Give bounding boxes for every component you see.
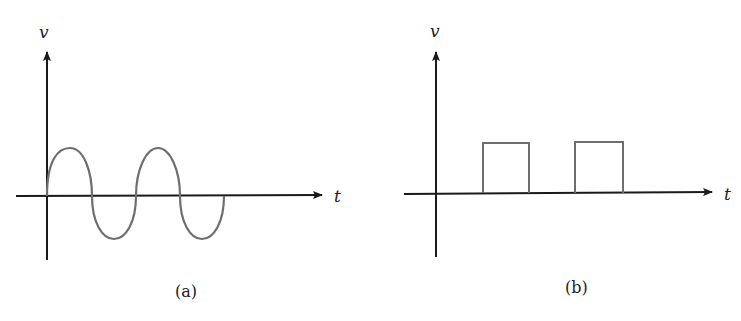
y-axis-label-a: v [39, 22, 49, 42]
figure-canvas: v t (a) v t (b) [0, 0, 741, 321]
x-axis-label-a: t [334, 186, 341, 206]
x-axis-b [404, 192, 712, 194]
y-axis-label-b: v [430, 21, 440, 41]
pulse-2 [575, 142, 623, 193]
caption-a: (a) [175, 282, 197, 301]
panel-a: v t (a) [16, 22, 341, 301]
panel-b: v t (b) [404, 21, 731, 297]
x-axis-label-b: t [724, 184, 731, 204]
pulse-1 [483, 143, 529, 193]
sine-waveform [47, 148, 224, 239]
caption-b: (b) [565, 278, 588, 297]
x-axis-a [16, 195, 322, 196]
